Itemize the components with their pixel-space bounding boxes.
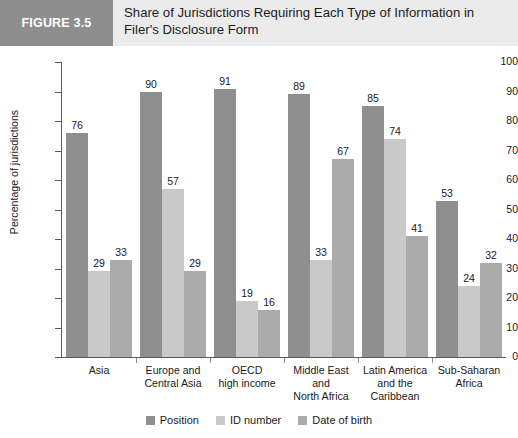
bar-value-label: 74 [389,125,401,137]
legend-swatch-icon [146,416,155,425]
x-axis-group-tick [136,358,137,363]
bar: 57 [162,189,184,357]
y-axis-tick [55,151,62,152]
x-axis-category-label: Middle EastandNorth Africa [284,364,358,403]
bar: 67 [332,159,354,357]
legend-label: Date of birth [312,414,372,426]
bar: 90 [140,92,162,358]
x-axis-category-label: Asia [62,364,136,377]
bar: 24 [458,286,480,357]
y-axis-tick [55,92,62,93]
x-axis-group-tick [358,358,359,363]
x-axis-category-label: Latin Americaand theCaribbean [358,364,432,403]
figure-number-badge: FIGURE 3.5 [0,0,113,46]
chart-legend: PositionID numberDate of birth [0,414,518,426]
bar-value-label: 91 [219,75,231,87]
bar-value-label: 57 [167,175,179,187]
legend-label: Position [160,414,199,426]
x-axis-category-label: OECDhigh income [210,364,284,390]
bar-value-label: 29 [189,257,201,269]
bar: 29 [88,271,110,357]
legend-item[interactable]: Position [146,414,199,426]
bar: 33 [110,260,132,357]
bar: 85 [362,106,384,357]
bar: 91 [214,89,236,357]
bar-chart: Percentage of jurisdictions 010203040506… [0,46,518,438]
bar: 16 [258,310,280,357]
bar: 74 [384,139,406,357]
y-axis-title: Percentage of jurisdictions [8,92,20,252]
figure-title: Share of Jurisdictions Requiring Each Ty… [113,0,518,46]
x-axis-group-tick [210,358,211,363]
y-axis-tick [55,121,62,122]
y-axis-tick [55,357,62,358]
bar-value-label: 32 [485,249,497,261]
bar-value-label: 89 [293,80,305,92]
x-axis-category-label: Sub-SaharanAfrica [432,364,506,390]
x-axis-group-tick [432,358,433,363]
bar: 33 [310,260,332,357]
bar-value-label: 29 [93,257,105,269]
y-axis-tick [55,269,62,270]
bar: 89 [288,94,310,357]
legend-swatch-icon [216,416,225,425]
bar: 19 [236,301,258,357]
y-axis-tick [55,298,62,299]
bar-value-label: 76 [71,119,83,131]
bar-value-label: 90 [145,78,157,90]
x-axis-group-tick [284,358,285,363]
bar-value-label: 16 [263,296,275,308]
bar: 76 [66,133,88,357]
bar: 53 [436,201,458,357]
x-axis-category-label: Europe andCentral Asia [136,364,210,390]
y-axis-tick [55,180,62,181]
bar-value-label: 19 [241,287,253,299]
bar-value-label: 24 [463,272,475,284]
legend-label: ID number [230,414,281,426]
y-axis-tick [55,328,62,329]
bar-value-label: 33 [115,246,127,258]
legend-item[interactable]: Date of birth [298,414,372,426]
bar-value-label: 67 [337,145,349,157]
bar: 41 [406,236,428,357]
bar: 32 [480,263,502,357]
bar-value-label: 53 [441,187,453,199]
bar-value-label: 41 [411,222,423,234]
plot-area: 762933905729911916893367857441532432 [62,62,506,357]
figure-header: FIGURE 3.5 Share of Jurisdictions Requir… [0,0,518,46]
legend-item[interactable]: ID number [216,414,281,426]
bar: 29 [184,271,206,357]
y-axis-tick [55,62,62,63]
legend-swatch-icon [298,416,307,425]
bar-value-label: 85 [367,92,379,104]
bar-value-label: 33 [315,246,327,258]
y-axis-tick [55,239,62,240]
y-axis-tick [55,210,62,211]
